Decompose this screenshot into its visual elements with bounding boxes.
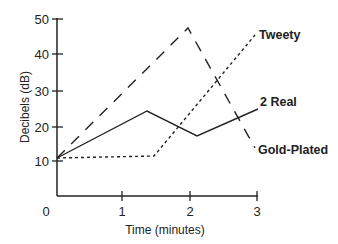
y-tick-label: 40 <box>35 47 49 62</box>
label-tweety: Tweety <box>259 28 300 42</box>
x-tick-label: 3 <box>253 204 260 219</box>
x-axis-label: Time (minutes) <box>125 223 205 237</box>
series-2-real <box>57 109 258 158</box>
label-gold-plated: Gold-Plated <box>258 143 328 157</box>
series-gold-plated <box>57 28 255 158</box>
x-tick-label: 0 <box>42 204 49 219</box>
series-tweety <box>57 35 255 158</box>
y-tick-label: 30 <box>35 84 49 99</box>
x-tick-label: 2 <box>186 204 193 219</box>
x-tick-label: 1 <box>118 204 125 219</box>
y-tick-label: 20 <box>35 120 49 135</box>
line-chart: 50 40 30 20 10 0 1 2 3 Time (minutes) De… <box>0 0 338 244</box>
y-tick-label: 50 <box>35 12 49 27</box>
y-tick-label: 10 <box>35 154 49 169</box>
label-2-real: 2 Real <box>260 95 297 109</box>
y-axis-label: Decibels (dB) <box>18 71 32 143</box>
